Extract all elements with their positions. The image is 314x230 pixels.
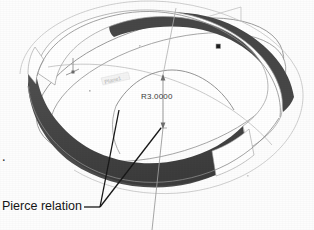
body-text-dot: .	[2, 150, 6, 164]
pierce-vertex-marker[interactable]	[216, 44, 221, 49]
radius-dimension-label[interactable]: R3.0000	[141, 93, 173, 101]
cad-isometric-drawing	[0, 0, 314, 230]
pierce-relation-label: Pierce relation	[2, 200, 82, 213]
cad-drawing-canvas: on . Pierce relation R3.0000 Plane1	[0, 0, 314, 230]
